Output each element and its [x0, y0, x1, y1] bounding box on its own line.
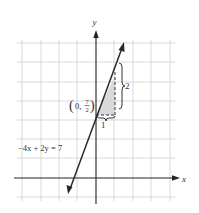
line-arrow-up-icon: [119, 42, 125, 52]
x-axis: [14, 175, 180, 180]
y-axis-arrow-icon: [93, 30, 98, 38]
coordinate-graph: y x 2 1 −4x + 2y = 7 ( 0, 7 2 ): [0, 0, 199, 213]
equation-label: −4x + 2y = 7: [18, 143, 62, 153]
y-axis-label: y: [92, 17, 97, 27]
fraction-denominator: 2: [86, 106, 89, 113]
run-label: 1: [101, 120, 106, 130]
close-paren: ): [90, 98, 95, 114]
open-paren: (: [69, 98, 74, 114]
x-axis-arrow-icon: [172, 175, 180, 180]
x-axis-label: x: [181, 174, 186, 184]
rise-label: 2: [125, 81, 130, 91]
intercept-point-label: ( 0, 7 2 ): [69, 98, 95, 115]
point-x-label: 0,: [75, 101, 81, 111]
